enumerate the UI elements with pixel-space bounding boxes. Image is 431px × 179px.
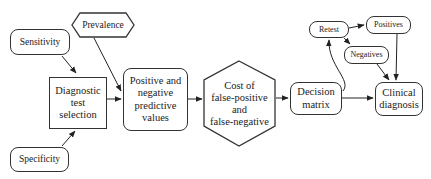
node-diagnostic-test-selection: Diagnostic test selection	[49, 77, 107, 129]
node-negatives-label: Negatives	[351, 50, 383, 59]
node-prevalence: Prevalence	[74, 14, 132, 36]
node-positives: Positives	[366, 16, 411, 34]
node-clinical-diagnosis-label: Clinical diagnosis	[379, 87, 419, 111]
node-clinical-diagnosis: Clinical diagnosis	[375, 82, 423, 116]
node-sensitivity: Sensitivity	[10, 29, 70, 55]
node-predictive-values: Positive and negative predictive values	[123, 68, 188, 131]
node-sensitivity-label: Sensitivity	[20, 37, 61, 48]
node-predictive-values-label: Positive and negative predictive values	[130, 75, 182, 123]
node-specificity-label: Specificity	[19, 154, 60, 165]
flowchart-diagram: Prevalence Sensitivity Specificity Diagn…	[0, 0, 431, 179]
node-prevalence-label: Prevalence	[82, 20, 124, 31]
node-cost: Cost of false-positive and false-negativ…	[204, 62, 275, 146]
node-retest-label: Retest	[319, 25, 339, 34]
edge-retest-to-positives	[349, 25, 364, 28]
node-diagnostic-test-selection-label: Diagnostic test selection	[55, 85, 101, 121]
edge-negatives-to-clinical	[377, 64, 389, 80]
node-retest: Retest	[309, 21, 349, 38]
node-negatives: Negatives	[344, 46, 389, 64]
node-decision-matrix-label: Decision matrix	[297, 86, 334, 110]
node-decision-matrix: Decision matrix	[290, 82, 342, 115]
edge-specificity-to-diagnostic	[62, 131, 75, 146]
node-cost-label: Cost of false-positive and false-negativ…	[210, 80, 269, 128]
edge-sensitivity-to-diagnostic	[62, 56, 76, 73]
node-positives-label: Positives	[374, 20, 403, 29]
node-specificity: Specificity	[10, 147, 69, 172]
edge-positives-to-clinical	[396, 34, 397, 80]
edge-retest-to-negatives	[344, 38, 350, 44]
